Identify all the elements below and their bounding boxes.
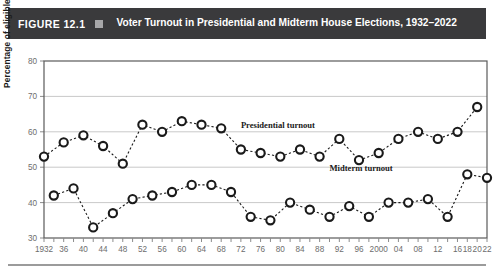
data-point-marker bbox=[158, 128, 166, 136]
x-axis-tick-label: 08 bbox=[414, 245, 424, 254]
x-axis-tick-label: 16 bbox=[453, 245, 463, 254]
bottom-divider bbox=[8, 264, 486, 266]
data-point-marker bbox=[473, 103, 481, 111]
data-point-marker bbox=[237, 145, 245, 153]
data-point-marker bbox=[129, 195, 137, 203]
x-axis-tick-label: 40 bbox=[79, 245, 89, 254]
x-axis-tick-label: 96 bbox=[354, 245, 364, 254]
data-point-marker bbox=[434, 135, 442, 143]
y-axis-tick-label: 60 bbox=[28, 128, 38, 137]
x-axis-tick-label: 56 bbox=[158, 245, 168, 254]
x-axis-tick-label: 22 bbox=[482, 245, 492, 254]
x-axis-tick-label: 04 bbox=[394, 245, 404, 254]
figure-title: Voter Turnout in Presidential and Midter… bbox=[116, 17, 456, 30]
data-point-marker bbox=[247, 213, 255, 221]
data-point-marker bbox=[394, 135, 402, 143]
data-point-marker bbox=[178, 117, 186, 125]
data-point-marker bbox=[316, 153, 324, 161]
chart-area: Percentage of eligible electorate 304050… bbox=[0, 39, 494, 274]
x-axis-tick-label: 64 bbox=[197, 245, 207, 254]
x-axis-tick-label: 52 bbox=[138, 245, 148, 254]
data-point-marker bbox=[99, 142, 107, 150]
figure-header-bar: FIGURE 12.1 Voter Turnout in Presidentia… bbox=[8, 8, 486, 39]
x-axis-tick-label: 68 bbox=[217, 245, 227, 254]
y-axis-tick-label: 80 bbox=[28, 57, 38, 66]
data-point-marker bbox=[306, 206, 314, 214]
data-point-marker bbox=[138, 121, 146, 129]
data-point-marker bbox=[365, 213, 373, 221]
data-point-marker bbox=[296, 145, 304, 153]
data-point-marker bbox=[453, 128, 461, 136]
x-axis-tick-label: 60 bbox=[177, 245, 187, 254]
data-point-marker bbox=[188, 181, 196, 189]
square-bullet-icon bbox=[95, 20, 103, 28]
x-axis-tick-label: 2000 bbox=[370, 245, 389, 254]
x-axis-tick-label: 84 bbox=[295, 245, 305, 254]
data-point-marker bbox=[168, 188, 176, 196]
data-point-marker bbox=[444, 213, 452, 221]
x-axis-tick-label: 72 bbox=[236, 245, 246, 254]
x-axis-tick-label: 80 bbox=[276, 245, 286, 254]
data-point-marker bbox=[276, 153, 284, 161]
x-axis-tick-label: 76 bbox=[256, 245, 266, 254]
data-point-marker bbox=[79, 131, 87, 139]
data-point-marker bbox=[207, 181, 215, 189]
data-point-marker bbox=[266, 216, 274, 224]
y-axis-tick-label: 30 bbox=[28, 234, 38, 243]
data-point-marker bbox=[69, 184, 77, 192]
series-annotation-label: Midterm turnout bbox=[329, 163, 392, 173]
x-axis-tick-label: 88 bbox=[315, 245, 325, 254]
data-point-marker bbox=[109, 209, 117, 217]
series-annotation-label: Presidential turnout bbox=[241, 120, 315, 130]
x-axis-tick-label: 18 bbox=[463, 245, 473, 254]
data-point-marker bbox=[404, 199, 412, 207]
data-point-marker bbox=[483, 174, 491, 182]
x-axis-tick-label: 20 bbox=[473, 245, 483, 254]
data-point-marker bbox=[197, 121, 205, 129]
data-point-marker bbox=[148, 191, 156, 199]
turnout-line-chart: 3040506070801932364044485256606468727680… bbox=[0, 39, 494, 274]
data-point-marker bbox=[463, 170, 471, 178]
data-point-marker bbox=[257, 149, 265, 157]
data-point-marker bbox=[375, 149, 383, 157]
y-axis-tick-label: 70 bbox=[28, 92, 38, 101]
data-point-marker bbox=[414, 128, 422, 136]
data-point-marker bbox=[227, 188, 235, 196]
data-point-marker bbox=[325, 213, 333, 221]
x-axis-tick-label: 36 bbox=[59, 245, 69, 254]
x-axis-tick-label: 12 bbox=[433, 245, 443, 254]
figure-number: FIGURE 12.1 bbox=[18, 18, 85, 30]
data-point-marker bbox=[50, 191, 58, 199]
x-axis-tick-label: 48 bbox=[118, 245, 128, 254]
data-point-marker bbox=[119, 160, 127, 168]
x-axis-tick-label: 1932 bbox=[35, 245, 54, 254]
figure-root: FIGURE 12.1 Voter Turnout in Presidentia… bbox=[0, 0, 494, 274]
data-point-marker bbox=[385, 199, 393, 207]
data-point-marker bbox=[60, 138, 68, 146]
data-point-marker bbox=[40, 153, 48, 161]
data-point-marker bbox=[89, 223, 97, 231]
y-axis-tick-label: 40 bbox=[28, 199, 38, 208]
x-axis-tick-label: 92 bbox=[335, 245, 345, 254]
x-axis-tick-label: 44 bbox=[99, 245, 109, 254]
data-point-marker bbox=[345, 202, 353, 210]
data-point-marker bbox=[335, 135, 343, 143]
data-point-marker bbox=[217, 124, 225, 132]
y-axis-tick-label: 50 bbox=[28, 163, 38, 172]
data-point-marker bbox=[424, 195, 432, 203]
data-point-marker bbox=[286, 199, 294, 207]
